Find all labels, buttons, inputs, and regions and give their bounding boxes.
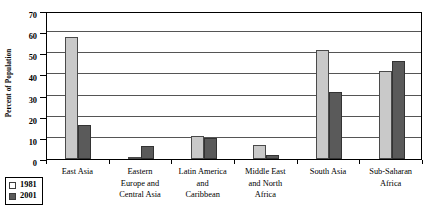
x-axis-category-label: Eastern Europe and Central Asia	[109, 166, 172, 201]
x-axis-ticks	[46, 160, 422, 165]
legend-item: 2001	[9, 191, 37, 202]
x-tick-mark	[422, 160, 423, 164]
bar	[329, 92, 342, 159]
x-axis-category-label: Middle East and North Africa	[234, 166, 297, 201]
bar	[266, 155, 279, 159]
bar	[65, 37, 78, 159]
bar	[253, 145, 266, 159]
plot-area	[46, 12, 422, 160]
legend: 1981 2001	[5, 177, 43, 205]
bar	[379, 71, 392, 159]
legend-label-1981: 1981	[20, 181, 37, 189]
bar	[191, 136, 204, 159]
bar	[78, 125, 91, 159]
bar	[141, 146, 154, 159]
legend-swatch-2001-icon	[9, 193, 16, 200]
bar	[316, 50, 329, 159]
bar-chart: Percent of Population 010203040506070 Ea…	[0, 0, 430, 217]
x-tick-mark	[359, 160, 360, 164]
legend-item: 1981	[9, 180, 37, 191]
legend-label-2001: 2001	[20, 192, 37, 200]
x-axis-labels: East AsiaEastern Europe and Central Asia…	[46, 166, 422, 212]
x-tick-mark	[171, 160, 172, 164]
x-axis-category-label: South Asia	[297, 166, 360, 178]
bar	[128, 157, 141, 159]
bars-layer	[47, 13, 421, 159]
x-axis-category-label: East Asia	[46, 166, 109, 178]
bar	[204, 138, 217, 159]
x-tick-mark	[46, 160, 47, 164]
bar	[392, 61, 405, 159]
y-axis-ticks: 010203040506070	[0, 12, 46, 160]
x-tick-mark	[234, 160, 235, 164]
legend-swatch-1981-icon	[9, 182, 16, 189]
x-tick-mark	[297, 160, 298, 164]
x-axis-category-label: Sub-Saharan Africa	[359, 166, 422, 189]
x-tick-mark	[109, 160, 110, 164]
x-axis-category-label: Latin America and Caribbean	[171, 166, 234, 201]
